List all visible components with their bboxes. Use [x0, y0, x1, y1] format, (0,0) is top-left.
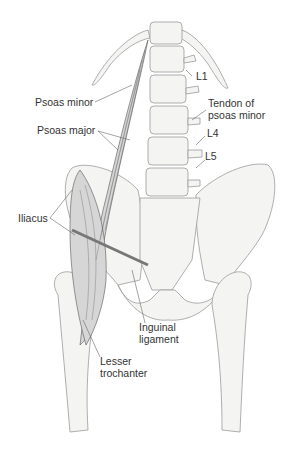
- label-lesser-trochanter: Lesser trochanter: [100, 355, 147, 379]
- anatomy-illustration: [0, 0, 305, 457]
- label-l4: L4: [207, 127, 219, 139]
- vertebra-l5: [146, 168, 188, 196]
- label-inguinal-line2: ligament: [139, 333, 179, 345]
- label-tendon-psoas-minor: Tendon of psoas minor: [208, 97, 265, 121]
- label-lesser-line2: trochanter: [100, 367, 147, 379]
- label-lesser-line1: Lesser: [100, 355, 147, 367]
- right-femur: [212, 272, 251, 432]
- label-inguinal-line1: Inguinal: [139, 321, 179, 333]
- right-ilium: [196, 164, 275, 285]
- vertebra-l4: [148, 137, 188, 165]
- sacrum: [140, 198, 200, 290]
- label-tendon-line1: Tendon of: [208, 97, 265, 109]
- label-iliacus: Iliacus: [18, 212, 48, 224]
- vertebra-t12: [150, 22, 182, 44]
- label-psoas-minor: Psoas minor: [35, 96, 93, 108]
- left-rib: [92, 30, 150, 85]
- vertebra-l1: [150, 46, 184, 72]
- label-inguinal-ligament: Inguinal ligament: [139, 321, 179, 345]
- label-psoas-major: Psoas major: [37, 124, 95, 136]
- pubis: [118, 285, 225, 320]
- label-l1: L1: [196, 70, 208, 82]
- vertebra-l2: [150, 75, 186, 103]
- vertebra-l3: [150, 106, 188, 134]
- label-tendon-line2: psoas minor: [208, 109, 265, 121]
- label-l5: L5: [205, 150, 217, 162]
